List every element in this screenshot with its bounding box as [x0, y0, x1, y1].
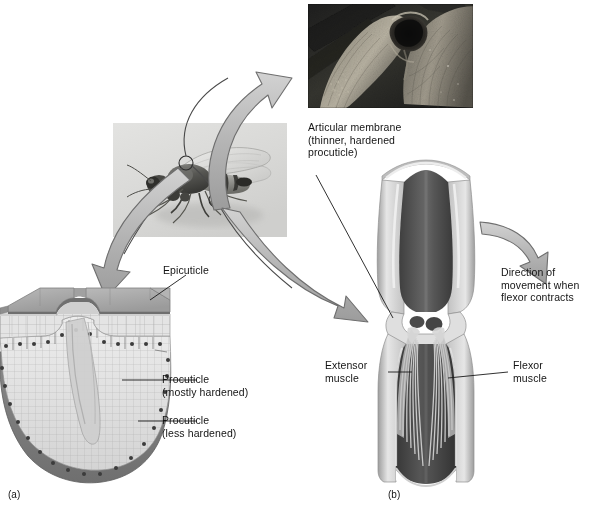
- arrow-to-cuticle-block: [92, 168, 190, 298]
- label-procuticle-less-hardened: Procuticle (less hardened): [162, 414, 236, 439]
- label-procuticle-mostly-hardened: Procuticle (mostly hardened): [162, 373, 248, 398]
- cuticle-block-diagram: [0, 288, 171, 483]
- panel-label-b: (b): [388, 489, 400, 500]
- figure-root: Epicuticle Procuticle (mostly hardened) …: [0, 0, 589, 520]
- label-epicuticle: Epicuticle: [163, 264, 209, 277]
- label-direction-of-movement: Direction of movement when flexor contra…: [501, 266, 579, 304]
- leg-joint-diagram: [377, 160, 475, 494]
- arrow-to-sem-photo: [209, 72, 292, 210]
- diagram-vector-layer: [0, 0, 589, 520]
- thorax-callout-circle: [179, 156, 193, 170]
- label-flexor-muscle: Flexor muscle: [513, 359, 547, 384]
- arrow-to-leg-joint-diagram: [222, 208, 368, 322]
- label-articular-membrane: Articular membrane (thinner, hardened pr…: [308, 121, 401, 159]
- label-extensor-muscle: Extensor muscle: [325, 359, 367, 384]
- panel-label-a: (a): [8, 489, 20, 500]
